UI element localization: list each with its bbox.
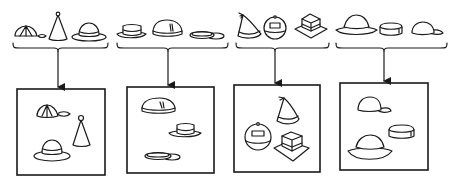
group-4-bracket — [336, 43, 447, 51]
dome-beret-hat-icon — [142, 98, 175, 113]
group-1-bracket — [13, 43, 108, 51]
group-4 — [336, 15, 447, 170]
pillbox-hat-icon — [389, 125, 414, 138]
group-1-box — [17, 89, 105, 175]
group-3-box-hats — [245, 97, 309, 161]
baseball-cap-icon — [358, 97, 391, 112]
round-brim-hat-icon — [72, 23, 106, 41]
tasseled-cone-hat-icon — [238, 13, 261, 38]
group-3-box — [234, 85, 320, 172]
baseball-cap-icon — [37, 105, 70, 118]
group-4-box-hats — [348, 97, 414, 159]
group-3-top-hats — [238, 13, 327, 39]
baseball-cap-icon — [15, 26, 46, 38]
flat-visor-cap-icon — [145, 153, 180, 161]
hat-sorting-diagram — [0, 0, 459, 184]
square-top-hat-icon — [295, 14, 327, 38]
group-2-bracket — [117, 43, 228, 51]
fedora-icon — [169, 124, 201, 137]
group-3-bracket — [236, 43, 329, 51]
group-1-box-hats — [34, 105, 90, 161]
group-2 — [117, 20, 228, 173]
round-brim-hat-icon — [34, 140, 70, 161]
party-cone-hat-icon — [73, 116, 90, 147]
fedora-icon — [117, 25, 146, 38]
group-2-box-hats — [142, 98, 201, 160]
group-4-top-hats — [336, 15, 443, 35]
baseball-cap-icon — [412, 22, 443, 35]
party-cone-hat-icon — [49, 12, 67, 40]
square-top-hat-icon — [274, 132, 309, 161]
dome-beret-hat-icon — [153, 20, 182, 36]
flat-visor-cap-icon — [190, 32, 224, 40]
round-helmet-icon — [264, 16, 286, 39]
group-1 — [13, 12, 108, 175]
wide-brim-sun-hat-icon — [348, 135, 392, 159]
wide-brim-sun-hat-icon — [336, 15, 377, 35]
pillbox-hat-icon — [380, 23, 402, 35]
round-helmet-icon — [245, 123, 271, 150]
group-3 — [234, 13, 329, 172]
tasseled-cone-hat-icon — [277, 97, 299, 124]
group-1-top-hats — [15, 12, 106, 41]
group-2-top-hats — [117, 20, 224, 39]
